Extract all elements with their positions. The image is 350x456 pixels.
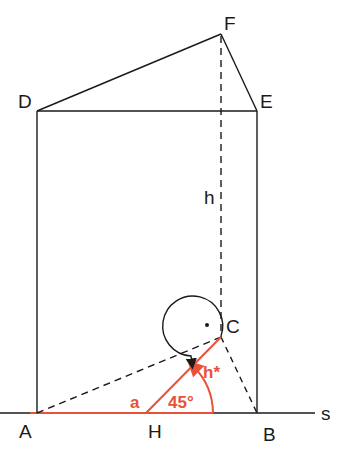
rotation-arc — [163, 296, 223, 364]
edge-CB-dashed — [221, 337, 257, 413]
label-s: s — [321, 403, 331, 424]
label-angle-45: 45° — [168, 393, 194, 412]
edge-FE — [221, 34, 257, 111]
label-h: h — [204, 187, 215, 208]
label-H: H — [148, 421, 162, 442]
edge-DF — [37, 34, 221, 111]
diagram-canvas: F D E h C A H B s a h* 45° — [0, 0, 350, 456]
right-angle-dot — [205, 323, 209, 327]
construction-drawing: F D E h C A H B s a h* 45° — [0, 0, 350, 456]
label-B: B — [263, 424, 276, 445]
label-C: C — [226, 316, 240, 337]
label-A: A — [19, 421, 32, 442]
label-D: D — [18, 91, 32, 112]
label-h-star: h* — [203, 363, 220, 382]
label-E: E — [260, 91, 273, 112]
label-F: F — [224, 13, 236, 34]
label-a: a — [130, 393, 140, 412]
